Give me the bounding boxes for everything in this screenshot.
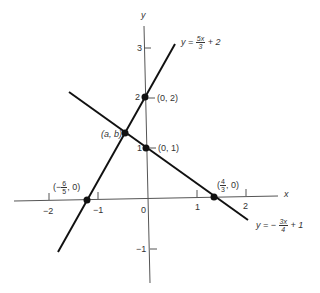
x-tick-label: 0 bbox=[141, 206, 146, 215]
equation-steep-line: y = 5x3 + 2 bbox=[181, 35, 220, 50]
y-tick-label: 2 bbox=[135, 93, 140, 102]
point-0-2 bbox=[142, 94, 149, 101]
point-0-1 bbox=[143, 145, 150, 152]
x-tick-label: 2 bbox=[243, 202, 248, 211]
x-tick-label: 1 bbox=[195, 203, 200, 212]
x-axis-label: x bbox=[284, 190, 289, 199]
label-0-2: (0, 2) bbox=[157, 94, 178, 103]
point-neg6-5-0 bbox=[84, 197, 91, 204]
label-intersection: (a, b) bbox=[101, 130, 122, 139]
label-0-1: (0, 1) bbox=[158, 144, 179, 153]
x-axis bbox=[14, 196, 278, 201]
point-intersection bbox=[122, 130, 129, 137]
x-tick-label: −1 bbox=[93, 206, 103, 215]
y-tick-label: 3 bbox=[137, 44, 142, 53]
x-tick-label: −2 bbox=[43, 207, 53, 216]
shallow-line bbox=[69, 92, 248, 220]
y-axis-label: y bbox=[141, 11, 146, 20]
label-4-3-0: (43, 0) bbox=[217, 178, 239, 193]
y-tick-label: 1 bbox=[137, 144, 142, 153]
y-tick-label: −1 bbox=[136, 245, 146, 254]
label-neg6-5-0: (−65, 0) bbox=[53, 180, 80, 195]
point-4-3-0 bbox=[211, 194, 218, 201]
equation-shallow-line: y = − 3x4 + 1 bbox=[256, 218, 303, 233]
